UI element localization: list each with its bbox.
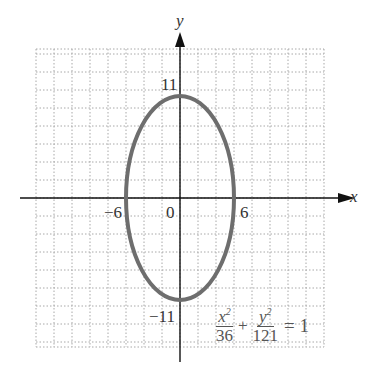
x-tick-origin: 0 [166, 204, 175, 221]
y-axis-arrow-icon [175, 32, 185, 47]
equation-label: x236 + y2121 = 1 [213, 307, 309, 345]
y-tick-bottom: −11 [149, 308, 175, 325]
y-axis-label: y [176, 12, 184, 29]
x-tick-right: 6 [240, 204, 249, 221]
ellipse-plot [0, 0, 377, 374]
x-tick-left: −6 [104, 204, 122, 221]
y-tick-top: 11 [161, 76, 177, 93]
x-axis-label: x [350, 188, 358, 205]
